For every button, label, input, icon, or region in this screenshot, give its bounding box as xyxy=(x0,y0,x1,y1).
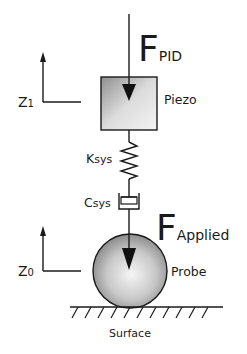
z1-axis: Z1 xyxy=(18,52,81,110)
spring-ksys xyxy=(121,142,137,179)
probe-label: Probe xyxy=(171,264,207,279)
arrow-up-icon xyxy=(40,52,46,62)
force-pid-label: FPID xyxy=(138,28,182,69)
z0-axis: Z0 xyxy=(18,226,81,279)
probe-mechanics-diagram: Z1 FPID Piezo Ksys Csys FApplied Z0 Prob… xyxy=(0,0,247,354)
z0-label: Z0 xyxy=(18,263,34,279)
force-applied-label: FApplied xyxy=(156,207,229,248)
arrow-up-icon xyxy=(40,226,46,236)
probe-sphere xyxy=(93,234,167,308)
piezo-label: Piezo xyxy=(164,92,197,107)
surface-ground xyxy=(70,307,223,318)
surface-label: Surface xyxy=(109,327,151,340)
ksys-label: Ksys xyxy=(86,151,112,166)
z1-label: Z1 xyxy=(18,94,34,110)
csys-label: Csys xyxy=(84,195,111,210)
